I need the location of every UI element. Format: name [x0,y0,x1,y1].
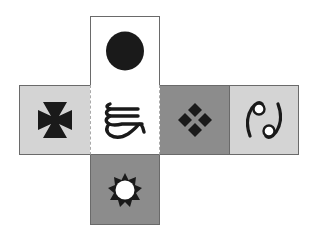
cancer-sign-icon [246,98,282,142]
face-top [90,16,160,86]
face-right [160,85,230,155]
face-bottom [90,155,160,225]
four-diamonds-icon [178,103,212,137]
face-far-right [229,85,299,155]
face-center [90,85,160,155]
sun-icon [107,172,143,208]
stylized-glyph-icon [102,100,148,140]
face-left [19,85,91,155]
cross-pattee-icon [38,102,72,138]
filled-circle-icon [105,31,145,71]
